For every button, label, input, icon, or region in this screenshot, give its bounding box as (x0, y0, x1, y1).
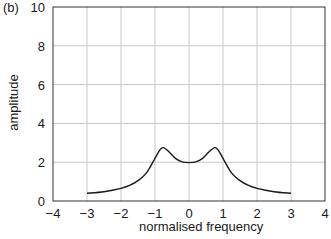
y-tick-label: 0 (38, 194, 45, 209)
x-tick-label: 3 (287, 206, 294, 221)
amplitude-chart: −4−3−2−1012340246810 (0, 0, 331, 239)
y-tick-label: 8 (38, 39, 45, 54)
x-tick-label: 4 (321, 206, 328, 221)
panel-label: (b) (3, 0, 19, 15)
x-tick-label: −4 (46, 206, 61, 221)
y-tick-label: 6 (38, 78, 45, 93)
x-axis-label: normalised frequency (139, 219, 263, 234)
y-axis-label: amplitude (6, 68, 21, 138)
y-tick-label: 4 (38, 116, 45, 131)
y-tick-label: 2 (38, 155, 45, 170)
x-tick-label: −2 (114, 206, 129, 221)
x-tick-label: −3 (80, 206, 95, 221)
y-tick-label: 10 (31, 0, 45, 15)
